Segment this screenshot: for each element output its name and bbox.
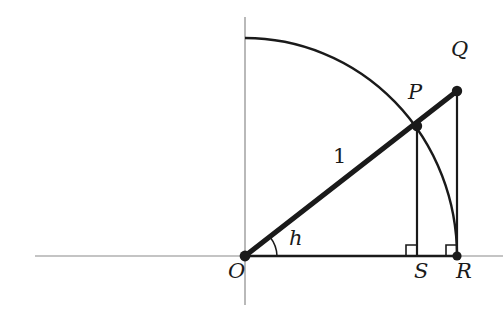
angle-arc-marker — [270, 237, 277, 256]
geometry-figure: O P Q S R 1 h — [0, 0, 503, 329]
right-angle-mark-s — [406, 245, 417, 256]
label-point-q: Q — [451, 39, 468, 60]
label-origin-o: O — [228, 261, 245, 282]
label-angle-h: h — [289, 228, 303, 249]
label-point-r: R — [456, 261, 472, 282]
label-radius-length: 1 — [333, 146, 346, 167]
label-point-s: S — [414, 261, 428, 282]
point-q-dot — [452, 86, 462, 96]
point-p-dot — [412, 121, 422, 131]
unit-circle-arc — [245, 38, 457, 256]
segment-oq — [245, 91, 457, 256]
label-point-p: P — [408, 82, 422, 103]
